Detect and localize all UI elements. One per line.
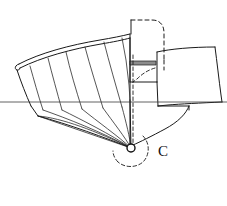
center-of-rotation-marker (127, 144, 135, 152)
line-drawing-canvas: C (0, 0, 227, 206)
technical-drawing-figure: C (0, 0, 227, 206)
shaded-seat-band (130, 61, 156, 65)
label-center-of-rotation: C (158, 143, 168, 159)
